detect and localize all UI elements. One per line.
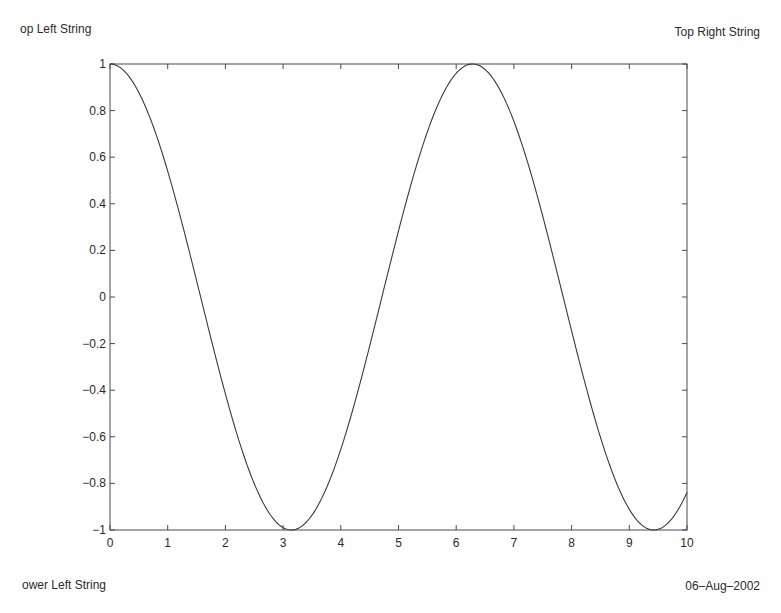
y-axis: −1−0.8−0.6−0.4−0.200.20.40.60.81 bbox=[82, 57, 687, 537]
x-tick-label: 1 bbox=[164, 536, 171, 550]
y-tick-label: 0.6 bbox=[89, 150, 106, 164]
bottom-left-string: ower Left String bbox=[22, 578, 106, 592]
x-tick-label: 0 bbox=[107, 536, 114, 550]
x-tick-label: 2 bbox=[222, 536, 229, 550]
y-tick-label: 1 bbox=[99, 57, 106, 71]
y-tick-label: −0.8 bbox=[82, 476, 106, 490]
y-tick-label: −0.2 bbox=[82, 337, 106, 351]
y-tick-label: 0 bbox=[99, 290, 106, 304]
y-tick-label: −0.4 bbox=[82, 383, 106, 397]
x-tick-label: 8 bbox=[568, 536, 575, 550]
y-tick-label: 0.4 bbox=[89, 197, 106, 211]
x-tick-label: 6 bbox=[453, 536, 460, 550]
y-tick-label: −1 bbox=[92, 523, 106, 537]
line-chart: 012345678910 −1−0.8−0.6−0.4−0.200.20.40.… bbox=[0, 0, 781, 613]
y-tick-label: 0.2 bbox=[89, 243, 106, 257]
cosine-curve bbox=[110, 64, 687, 530]
date-stamp: 06–Aug–2002 bbox=[685, 579, 760, 593]
x-tick-label: 5 bbox=[395, 536, 402, 550]
y-tick-label: 0.8 bbox=[89, 104, 106, 118]
x-tick-label: 9 bbox=[626, 536, 633, 550]
x-tick-label: 3 bbox=[280, 536, 287, 550]
y-tick-label: −0.6 bbox=[82, 430, 106, 444]
x-tick-label: 10 bbox=[680, 536, 694, 550]
plot-area bbox=[110, 64, 687, 530]
x-tick-label: 7 bbox=[511, 536, 518, 550]
x-axis: 012345678910 bbox=[107, 64, 694, 550]
x-tick-label: 4 bbox=[337, 536, 344, 550]
